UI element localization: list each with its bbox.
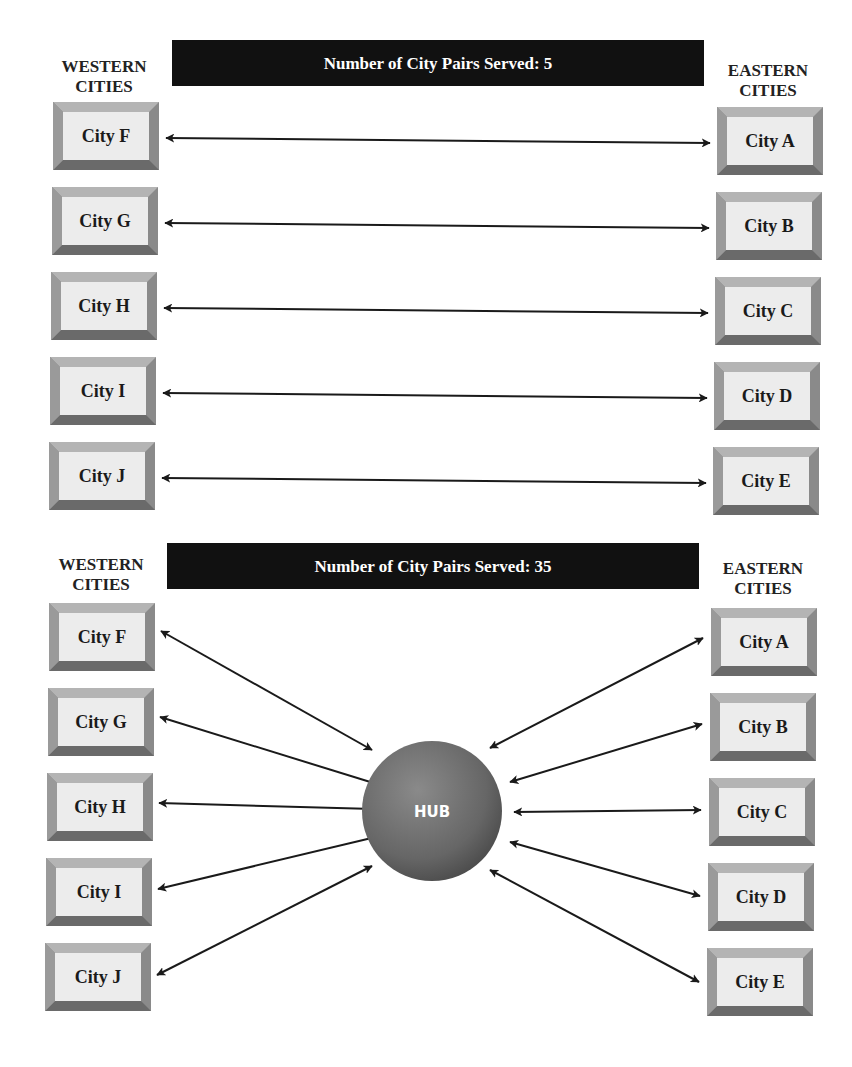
city-label: City B bbox=[738, 717, 788, 737]
banner-text: Number of City Pairs Served: 5 bbox=[324, 54, 553, 73]
east-city-box: City B bbox=[710, 693, 816, 761]
route-arrow bbox=[514, 810, 701, 812]
route-arrow bbox=[160, 717, 380, 785]
city-label: City J bbox=[75, 967, 122, 987]
route-arrow bbox=[162, 478, 706, 483]
west-city-box: City F bbox=[49, 603, 155, 671]
west-city-box: City F bbox=[53, 102, 159, 170]
banner-text: Number of City Pairs Served: 35 bbox=[314, 557, 551, 576]
city-label: City A bbox=[745, 131, 795, 151]
west-city-box: City J bbox=[45, 943, 151, 1011]
city-label: City I bbox=[77, 882, 122, 902]
city-label: City F bbox=[78, 627, 127, 647]
city-label: City H bbox=[74, 797, 126, 817]
east-city-box: City A bbox=[717, 107, 823, 175]
route-arrow bbox=[165, 223, 709, 228]
city-label: City H bbox=[78, 296, 130, 316]
city-label: City G bbox=[79, 211, 131, 231]
route-arrow bbox=[164, 308, 708, 313]
eastern-header: EASTERNCITIES bbox=[728, 61, 809, 100]
east-city-box: City B bbox=[716, 192, 822, 260]
city-label: City I bbox=[81, 381, 126, 401]
east-city-box: City C bbox=[715, 277, 821, 345]
city-label: City D bbox=[736, 887, 787, 907]
city-label: City J bbox=[79, 466, 126, 486]
west-city-box: City G bbox=[52, 187, 158, 255]
western-header: WESTERNCITIES bbox=[58, 555, 144, 594]
city-label: City F bbox=[82, 126, 131, 146]
eastern-header: EASTERNCITIES bbox=[723, 559, 804, 598]
west-city-box: City I bbox=[46, 858, 152, 926]
west-city-box: City H bbox=[51, 272, 157, 340]
route-arrow bbox=[158, 836, 380, 889]
west-city-box: City G bbox=[48, 688, 154, 756]
route-arrow bbox=[161, 631, 372, 750]
west-city-box: City J bbox=[49, 442, 155, 510]
city-label: City E bbox=[735, 972, 785, 992]
city-label: City D bbox=[742, 386, 793, 406]
city-label: City B bbox=[744, 216, 794, 236]
airline-network-diagram: Number of City Pairs Served: 5 WESTERNCI… bbox=[0, 0, 852, 1067]
city-label: City C bbox=[737, 802, 788, 822]
hub-node: HUB bbox=[362, 741, 502, 881]
panel-point-to-point: Number of City Pairs Served: 5 WESTERNCI… bbox=[49, 40, 823, 515]
city-label: City E bbox=[741, 471, 791, 491]
east-city-box: City D bbox=[714, 362, 820, 430]
city-label: City C bbox=[743, 301, 794, 321]
east-city-box: City A bbox=[711, 608, 817, 676]
hub-label: HUB bbox=[414, 803, 450, 821]
route-arrow bbox=[510, 724, 702, 782]
east-city-box: City E bbox=[713, 447, 819, 515]
route-arrow bbox=[490, 638, 703, 748]
route-arrow bbox=[166, 138, 710, 143]
western-header: WESTERNCITIES bbox=[61, 57, 147, 96]
east-city-box: City D bbox=[708, 863, 814, 931]
panel-hub-and-spoke: Number of City Pairs Served: 35 WESTERNC… bbox=[45, 543, 817, 1016]
west-city-box: City H bbox=[47, 773, 153, 841]
east-city-box: City C bbox=[709, 778, 815, 846]
route-arrow bbox=[163, 393, 707, 398]
east-city-box: City E bbox=[707, 948, 813, 1016]
city-label: City A bbox=[739, 632, 789, 652]
route-arrow bbox=[510, 842, 700, 896]
west-city-box: City I bbox=[50, 357, 156, 425]
city-label: City G bbox=[75, 712, 127, 732]
route-arrow bbox=[159, 803, 374, 809]
